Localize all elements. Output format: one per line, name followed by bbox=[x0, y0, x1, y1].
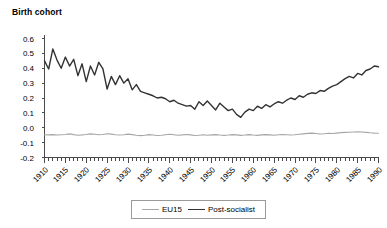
series-line-post-socialist bbox=[45, 49, 379, 117]
chart-legend: EU15Post-socialist bbox=[131, 200, 266, 219]
legend-line-swatch bbox=[188, 209, 205, 210]
legend-item: EU15 bbox=[142, 206, 182, 214]
birth-cohort-chart: Birth cohort 0.60.50.40.30.20.10.0-0.1-0… bbox=[0, 0, 387, 228]
series-line-eu15 bbox=[45, 132, 379, 136]
axis-ticks bbox=[42, 39, 379, 163]
axes bbox=[45, 35, 379, 158]
legend-line-swatch bbox=[142, 209, 159, 210]
legend-label: EU15 bbox=[162, 206, 182, 214]
legend-item: Post-socialist bbox=[188, 206, 255, 214]
legend-label: Post-socialist bbox=[208, 206, 255, 214]
plot-area bbox=[0, 0, 387, 228]
data-series bbox=[45, 49, 379, 136]
